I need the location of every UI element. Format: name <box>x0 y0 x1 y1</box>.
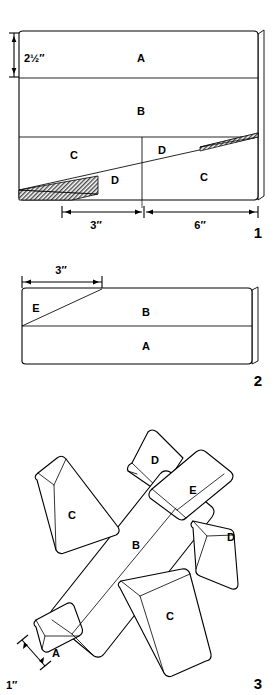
figure-1-block-side-view: 2½″ 3″ 6″ A B C D D C 1 <box>0 0 278 250</box>
part-label-b: B <box>142 306 150 318</box>
figure-number-1: 1 <box>254 224 262 241</box>
part-c-right-wing <box>118 569 211 677</box>
figure-number-2: 2 <box>254 372 262 389</box>
figure-number-3: 3 <box>254 675 262 692</box>
part-label-d-right: D <box>227 531 235 543</box>
figure-2-svg: 3″ E B A 2 <box>0 260 278 390</box>
part-label-e: E <box>189 484 196 496</box>
width-dimension-label: 3″ <box>55 264 67 276</box>
width-dimension-line <box>22 276 102 288</box>
part-label-d-lower: D <box>111 174 119 186</box>
block-right-face <box>252 287 258 364</box>
part-label-e: E <box>32 302 39 314</box>
figure-3-svg: 1″ D E C B D C A 3 <box>0 408 278 695</box>
figure-3-assembled-airplane: 1″ D E C B D C A 3 <box>0 408 278 695</box>
part-label-c-right: C <box>200 171 208 183</box>
figure-1-svg: 2½″ 3″ 6″ A B C D D C 1 <box>0 0 278 250</box>
height-dimension-label: 2½″ <box>24 52 45 64</box>
part-label-c-left: C <box>70 149 78 161</box>
part-label-a: A <box>137 52 145 64</box>
nose-thickness-dimension-label: 1″ <box>6 679 18 691</box>
part-label-d-upper: D <box>158 144 166 156</box>
block-right-face <box>258 30 264 200</box>
width-dimension-left-label: 3″ <box>90 219 102 231</box>
part-label-b: B <box>132 539 140 551</box>
part-c-left-wing <box>35 456 119 553</box>
width-dimension-lines <box>62 200 258 218</box>
part-label-c-left: C <box>68 509 76 521</box>
figure-2-block-top-view: 3″ E B A 2 <box>0 260 278 390</box>
part-a-nose <box>34 603 83 652</box>
width-dimension-right-label: 6″ <box>194 219 206 231</box>
part-label-d-upper: D <box>151 454 159 466</box>
height-dimension-line <box>9 33 19 77</box>
part-label-a: A <box>52 647 60 659</box>
part-label-c-right: C <box>166 610 174 622</box>
part-label-a: A <box>142 340 150 352</box>
part-label-b: B <box>137 105 145 117</box>
